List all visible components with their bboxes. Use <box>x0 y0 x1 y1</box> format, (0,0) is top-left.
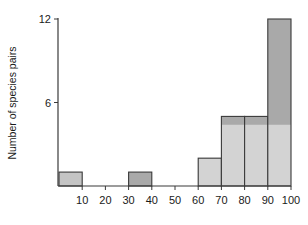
y-tick-label: 6 <box>45 97 51 109</box>
bar-lower-segment <box>221 125 244 186</box>
histogram-bar <box>198 158 221 186</box>
y-axis-ticks: 612 <box>39 13 58 109</box>
y-axis-label: Number of species pairs <box>6 46 18 159</box>
x-tick-label: 70 <box>215 194 227 206</box>
x-tick-label: 30 <box>122 194 134 206</box>
bar-lower-segment <box>268 125 291 186</box>
bar-lower-segment <box>245 125 268 186</box>
bar-lower-segment <box>198 158 221 186</box>
histogram-bar <box>129 172 152 186</box>
bar-upper-segment <box>129 172 152 186</box>
x-tick-label: 10 <box>76 194 88 206</box>
y-tick-label: 12 <box>39 13 51 25</box>
histogram-bar <box>59 172 82 186</box>
histogram-bars <box>59 19 291 186</box>
x-tick-label: 60 <box>192 194 204 206</box>
histogram-bar <box>245 116 268 186</box>
x-tick-label: 50 <box>169 194 181 206</box>
histogram-chart: 612 102030405060708090100 Number of spec… <box>0 0 308 225</box>
x-tick-label: 100 <box>282 194 300 206</box>
x-tick-label: 20 <box>99 194 111 206</box>
histogram-bar <box>268 19 291 186</box>
bar-upper-segment <box>59 172 82 186</box>
x-tick-label: 80 <box>238 194 250 206</box>
x-tick-label: 90 <box>262 194 274 206</box>
histogram-bar <box>221 116 244 186</box>
x-axis-ticks: 102030405060708090100 <box>76 186 300 206</box>
x-tick-label: 40 <box>146 194 158 206</box>
